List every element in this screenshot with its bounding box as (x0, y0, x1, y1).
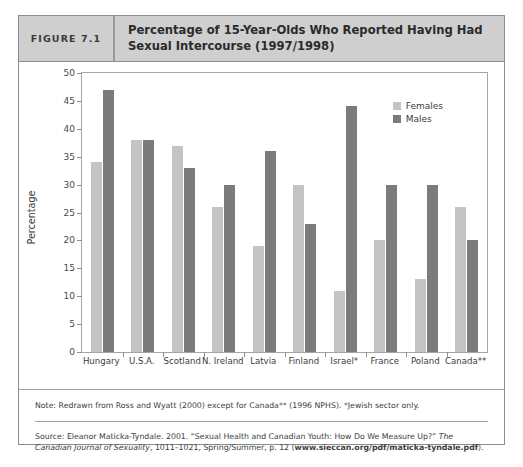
bar-latvia-males (265, 151, 276, 352)
bar-usa-females (131, 140, 142, 352)
x-axis-labels: HungaryU.S.A.ScotlandN. IrelandLatviaFin… (81, 356, 488, 372)
bar-latvia-females (253, 246, 264, 352)
bar-scotland-males (184, 168, 195, 352)
figure-header: FIGURE 7.1 Percentage of 15-Year-Olds Wh… (19, 16, 504, 62)
y-axis-tick-mark (77, 129, 82, 130)
chart-region: Percentage 05101520253035404550 Females … (19, 62, 504, 389)
y-axis-tick-mark (77, 296, 82, 297)
bar-poland-males (427, 185, 438, 352)
source-url: www.sieccan.org/pdf/maticka-tyndale.pdf (295, 443, 479, 452)
source-text-part1: Source: Eleanor Maticka-Tyndale. 2001. “… (35, 432, 439, 441)
bar-hungary-females (91, 162, 102, 352)
x-axis-label: N. Ireland (202, 356, 244, 366)
y-axis-tick-mark (77, 185, 82, 186)
source-divider (35, 421, 488, 422)
source-text-part3: ). (478, 443, 484, 452)
bar-usa-males (143, 140, 154, 352)
bar-france-females (374, 240, 385, 352)
figure-title-cell: Percentage of 15-Year-Olds Who Reported … (115, 16, 504, 61)
legend-swatch-females-icon (393, 102, 401, 110)
bar-france-males (386, 185, 397, 352)
y-axis-tick-mark (77, 268, 82, 269)
y-axis-tick-mark (77, 157, 82, 158)
legend-swatch-males-icon (393, 115, 401, 123)
figure-source: Source: Eleanor Maticka-Tyndale. 2001. “… (35, 431, 488, 454)
figure-title: Percentage of 15-Year-Olds Who Reported … (128, 23, 492, 55)
bar-canada-males (467, 240, 478, 352)
figure-number-cell: FIGURE 7.1 (19, 16, 115, 61)
x-axis-label: Poland (411, 356, 440, 366)
bar-nireland-females (212, 207, 223, 352)
legend-label-males: Males (406, 114, 432, 124)
bar-finland-females (293, 185, 304, 352)
y-axis-tick-mark (77, 240, 82, 241)
bar-poland-females (415, 279, 426, 352)
legend-item-males: Males (393, 114, 443, 124)
figure-footnotes: Note: Redrawn from Ross and Wyatt (2000)… (19, 389, 504, 444)
y-axis-tick-mark (77, 324, 82, 325)
x-axis-label: Israel* (330, 356, 358, 366)
y-axis-tick-mark (77, 213, 82, 214)
y-axis-tick-mark (77, 101, 82, 102)
bar-canada-females (455, 207, 466, 352)
legend-item-females: Females (393, 101, 443, 111)
figure-number-label: FIGURE 7.1 (31, 33, 101, 44)
y-axis-tick-mark (77, 352, 82, 353)
chart-legend: Females Males (393, 101, 443, 127)
x-axis-label: Finland (288, 356, 319, 366)
bar-scotland-females (172, 146, 183, 352)
x-axis-label: U.S.A. (129, 356, 155, 366)
bar-israel-males (346, 106, 357, 352)
y-axis-tick-mark (77, 73, 82, 74)
y-axis-title: Percentage (26, 191, 37, 245)
legend-label-females: Females (406, 101, 443, 111)
x-axis-label: Scotland (164, 356, 201, 366)
x-axis-label: Hungary (83, 356, 120, 366)
bar-finland-males (305, 224, 316, 352)
bar-israel-females (334, 291, 345, 352)
x-axis-label: France (370, 356, 399, 366)
x-axis-label: Latvia (250, 356, 276, 366)
bar-hungary-males (103, 90, 114, 352)
figure-note: Note: Redrawn from Ross and Wyatt (2000)… (35, 401, 488, 412)
note-divider (19, 389, 504, 390)
x-axis-label: Canada** (445, 356, 486, 366)
source-text-part2: , 1011–1021, Spring/Summer, p. 12 ( (150, 443, 295, 452)
bar-nireland-males (224, 185, 235, 352)
plot-frame: 05101520253035404550 Females Males (81, 72, 488, 353)
figure-container: FIGURE 7.1 Percentage of 15-Year-Olds Wh… (18, 15, 505, 445)
